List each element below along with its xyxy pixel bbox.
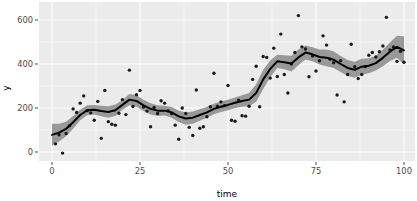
data-point bbox=[93, 119, 96, 122]
data-point bbox=[89, 111, 92, 114]
data-point bbox=[177, 138, 180, 141]
data-point bbox=[184, 112, 187, 115]
data-point bbox=[251, 78, 254, 81]
data-point bbox=[297, 14, 300, 17]
data-point bbox=[124, 113, 127, 116]
data-point bbox=[342, 100, 345, 103]
x-axis-title: time bbox=[217, 189, 238, 199]
data-point bbox=[279, 32, 282, 35]
data-point bbox=[195, 88, 198, 91]
data-point bbox=[258, 105, 261, 108]
data-point bbox=[360, 73, 363, 76]
data-point bbox=[205, 115, 208, 118]
data-point bbox=[318, 59, 321, 62]
x-tick-label: 50 bbox=[223, 166, 234, 176]
data-point bbox=[135, 93, 138, 96]
data-point bbox=[335, 93, 338, 96]
y-tick-label: 400 bbox=[17, 59, 33, 69]
data-point bbox=[100, 137, 103, 140]
data-point bbox=[212, 72, 215, 75]
data-point bbox=[381, 44, 384, 47]
x-tick-label: 100 bbox=[396, 166, 412, 176]
x-axis-ticks bbox=[52, 162, 404, 165]
data-point bbox=[350, 43, 353, 46]
y-tick-label: 600 bbox=[17, 15, 33, 25]
data-point bbox=[219, 100, 222, 103]
data-point bbox=[378, 50, 381, 53]
scatter-plot-svg: 0255075100 0200400600 time y bbox=[0, 0, 417, 201]
data-point bbox=[283, 73, 286, 76]
data-point bbox=[110, 123, 113, 126]
data-point bbox=[233, 120, 236, 123]
data-point bbox=[325, 43, 328, 46]
plot-panel-background bbox=[39, 2, 415, 161]
data-point bbox=[402, 61, 405, 64]
y-axis-ticks bbox=[35, 20, 38, 152]
x-tick-label: 75 bbox=[311, 166, 322, 176]
data-point bbox=[128, 68, 131, 71]
data-point bbox=[395, 60, 398, 63]
data-point bbox=[145, 109, 148, 112]
x-tick-label: 25 bbox=[135, 166, 146, 176]
y-axis-tick-labels: 0200400600 bbox=[17, 15, 33, 157]
data-point bbox=[346, 73, 349, 76]
data-point bbox=[191, 134, 194, 137]
data-point bbox=[54, 142, 57, 145]
data-point bbox=[226, 84, 229, 87]
data-point bbox=[107, 120, 110, 123]
data-point bbox=[367, 54, 370, 57]
data-point bbox=[159, 99, 162, 102]
x-tick-label: 0 bbox=[49, 166, 54, 176]
data-point bbox=[254, 65, 257, 68]
y-tick-label: 0 bbox=[28, 147, 33, 157]
data-point bbox=[78, 101, 81, 104]
x-axis-tick-labels: 0255075100 bbox=[49, 166, 412, 176]
data-point bbox=[188, 126, 191, 129]
data-point bbox=[272, 46, 275, 49]
y-axis-title: y bbox=[1, 85, 11, 91]
data-point bbox=[209, 105, 212, 108]
data-point bbox=[371, 51, 374, 54]
data-point bbox=[314, 69, 317, 72]
data-point bbox=[121, 98, 124, 101]
data-point bbox=[300, 45, 303, 48]
data-point bbox=[138, 89, 141, 92]
data-point bbox=[262, 55, 265, 58]
data-point bbox=[117, 112, 120, 115]
data-point bbox=[321, 34, 324, 37]
data-point bbox=[156, 112, 159, 115]
data-point bbox=[353, 65, 356, 68]
data-point bbox=[64, 132, 67, 135]
y-tick-label: 200 bbox=[17, 103, 33, 113]
data-point bbox=[149, 125, 152, 128]
data-point bbox=[71, 107, 74, 110]
data-point bbox=[163, 101, 166, 104]
data-point bbox=[103, 89, 106, 92]
data-point bbox=[304, 47, 307, 50]
data-point bbox=[247, 105, 250, 108]
data-point bbox=[286, 91, 289, 94]
data-point bbox=[307, 75, 310, 78]
data-point bbox=[374, 55, 377, 58]
data-point bbox=[131, 105, 134, 108]
data-point bbox=[75, 111, 78, 114]
data-point bbox=[114, 123, 117, 126]
data-point bbox=[82, 94, 85, 97]
data-point bbox=[385, 16, 388, 19]
data-point bbox=[230, 119, 233, 122]
data-point bbox=[357, 77, 360, 80]
data-point bbox=[269, 76, 272, 79]
data-point bbox=[244, 114, 247, 117]
data-point bbox=[202, 125, 205, 128]
data-point bbox=[198, 127, 201, 130]
data-point bbox=[265, 56, 268, 59]
data-point bbox=[276, 75, 279, 78]
data-point bbox=[293, 51, 296, 54]
data-point bbox=[181, 106, 184, 109]
data-point bbox=[240, 114, 243, 117]
data-point bbox=[174, 123, 177, 126]
data-point bbox=[96, 100, 99, 103]
data-point bbox=[61, 151, 64, 154]
data-point bbox=[339, 59, 342, 62]
chart-container: 0255075100 0200400600 time y bbox=[0, 0, 417, 201]
